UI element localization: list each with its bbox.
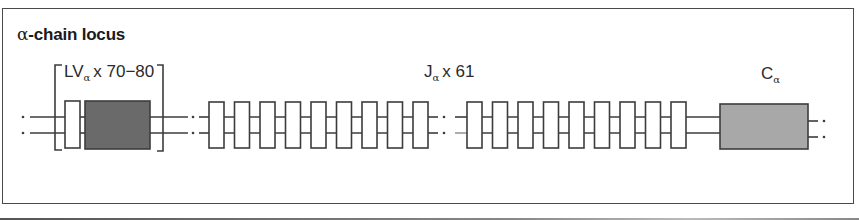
j-segments-right	[467, 102, 686, 148]
j-segments-left	[209, 102, 428, 148]
locus-diagram	[0, 0, 859, 220]
leader-exon	[65, 101, 80, 148]
v-exon	[85, 101, 150, 149]
left-bracket	[55, 65, 62, 150]
right-bracket	[157, 65, 163, 151]
c-exon	[720, 104, 808, 149]
